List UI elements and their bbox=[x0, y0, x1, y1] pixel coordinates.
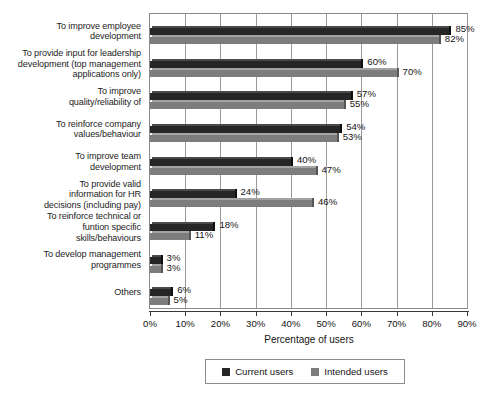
bar-group: 54%53% bbox=[150, 112, 467, 145]
bar-value-label: 47% bbox=[322, 165, 341, 175]
category-label-line: development bbox=[3, 162, 141, 173]
bar-intended bbox=[150, 231, 189, 238]
bar-intended bbox=[150, 264, 161, 271]
bar-current bbox=[150, 189, 235, 196]
category-label-line: funtion specific bbox=[3, 222, 141, 233]
bar-side bbox=[312, 198, 314, 207]
x-tick-label: 20% bbox=[200, 318, 240, 329]
category-label-line: programmes bbox=[3, 260, 141, 271]
bar-value-label: 11% bbox=[195, 230, 214, 240]
category-label: To improve employeedevelopment bbox=[3, 21, 141, 42]
bar-side bbox=[189, 231, 191, 240]
x-tick-label: 10% bbox=[165, 318, 205, 329]
bar-side bbox=[161, 255, 163, 264]
category-label: To provide input for leadershipdevelopme… bbox=[3, 48, 141, 80]
bar-value-label: 46% bbox=[318, 197, 337, 207]
bar-group: 60%70% bbox=[150, 47, 467, 80]
category-label: To improvequality/reliability of bbox=[3, 86, 141, 107]
category-label-line: To reinforce company bbox=[3, 119, 141, 130]
bar-intended bbox=[150, 166, 316, 173]
category-label-line: development (top management bbox=[3, 59, 141, 70]
legend-label: Current users bbox=[235, 366, 293, 377]
bar-current bbox=[150, 287, 171, 294]
bar-side bbox=[439, 35, 441, 44]
bar-face bbox=[150, 28, 449, 35]
plot-area: 85%82%60%70%57%55%54%53%40%47%24%46%18%1… bbox=[149, 13, 468, 309]
bar-side bbox=[235, 189, 237, 198]
x-tick bbox=[256, 311, 257, 316]
category-label: To improve teamdevelopment bbox=[3, 151, 141, 172]
category-label-line: applications only) bbox=[3, 69, 141, 80]
bar-face bbox=[150, 159, 291, 166]
bar-side bbox=[397, 68, 399, 77]
x-axis-title: Percentage of users bbox=[149, 334, 469, 345]
category-label-line: To reinforce technical or bbox=[3, 211, 141, 222]
bar-group: 57%55% bbox=[150, 79, 467, 112]
bar-side bbox=[161, 264, 163, 273]
bar-value-label: 40% bbox=[297, 155, 316, 165]
category-label-line: To improve bbox=[3, 86, 141, 97]
bar-side bbox=[337, 133, 339, 142]
bar-group: 18%11% bbox=[150, 210, 467, 243]
bar-current bbox=[150, 91, 351, 98]
bar-intended bbox=[150, 68, 397, 75]
bar-group: 3%3% bbox=[150, 243, 467, 276]
bar-value-label: 82% bbox=[445, 34, 464, 44]
x-tick bbox=[432, 311, 433, 316]
category-label-line: To improve employee bbox=[3, 21, 141, 32]
bar-chart: To improve employeedevelopmentTo provide… bbox=[0, 0, 497, 403]
x-tick bbox=[291, 311, 292, 316]
category-label-line: development bbox=[3, 31, 141, 42]
bar-current bbox=[150, 26, 449, 33]
x-tick-label: 90% bbox=[447, 318, 487, 329]
bar-group: 6%5% bbox=[150, 275, 467, 308]
x-tick-label: 50% bbox=[306, 318, 346, 329]
bar-face bbox=[150, 37, 439, 44]
bar-current bbox=[150, 157, 291, 164]
category-label-line: quality/reliability of bbox=[3, 97, 141, 108]
legend-item: Current users bbox=[222, 366, 293, 377]
chart-legend: Current usersIntended users bbox=[205, 359, 405, 384]
bar-group: 24%46% bbox=[150, 177, 467, 210]
bar-face bbox=[150, 135, 337, 142]
category-label-line: skills/behaviours bbox=[3, 233, 141, 244]
bar-current bbox=[150, 59, 361, 66]
x-tick bbox=[185, 311, 186, 316]
bar-value-label: 18% bbox=[219, 220, 238, 230]
x-tick-label: 80% bbox=[412, 318, 452, 329]
bar-face bbox=[150, 257, 161, 264]
x-tick-label: 70% bbox=[377, 318, 417, 329]
bar-side bbox=[344, 100, 346, 109]
category-label: Others bbox=[3, 287, 141, 298]
x-tick bbox=[150, 311, 151, 316]
bar-intended bbox=[150, 100, 344, 107]
bar-face bbox=[150, 102, 344, 109]
gridline bbox=[467, 14, 468, 308]
bar-face bbox=[150, 70, 397, 77]
category-label-line: To improve team bbox=[3, 151, 141, 162]
bar-group: 40%47% bbox=[150, 145, 467, 178]
category-label-line: decisions (including pay) bbox=[3, 200, 141, 211]
x-tick bbox=[467, 311, 468, 316]
bar-intended bbox=[150, 133, 337, 140]
bar-side bbox=[168, 296, 170, 305]
legend-swatch-icon bbox=[311, 368, 319, 376]
x-axis-line bbox=[149, 311, 469, 312]
bar-intended bbox=[150, 35, 439, 42]
bar-side bbox=[316, 166, 318, 175]
bar-face bbox=[150, 298, 168, 305]
category-label-line: values/behaviour bbox=[3, 129, 141, 140]
x-tick bbox=[326, 311, 327, 316]
bar-face bbox=[150, 200, 312, 207]
legend-item: Intended users bbox=[311, 366, 387, 377]
x-tick bbox=[397, 311, 398, 316]
x-tick-label: 40% bbox=[271, 318, 311, 329]
bar-side bbox=[291, 157, 293, 166]
category-label: To reinforce technical orfuntion specifi… bbox=[3, 211, 141, 243]
bar-face bbox=[150, 289, 171, 296]
bar-face bbox=[150, 191, 235, 198]
bar-face bbox=[150, 126, 340, 133]
category-label-line: information for HR bbox=[3, 189, 141, 200]
bar-value-label: 53% bbox=[343, 132, 362, 142]
x-tick-label: 60% bbox=[341, 318, 381, 329]
